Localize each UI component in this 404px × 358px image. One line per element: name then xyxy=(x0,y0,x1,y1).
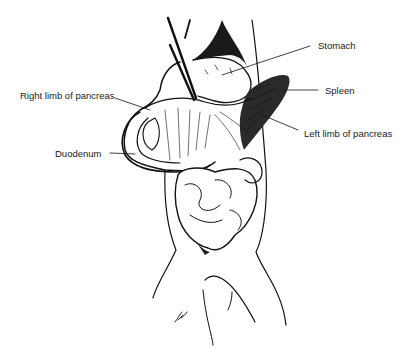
intestines-drawing xyxy=(175,158,262,255)
anatomical-illustration: Stomach Spleen Right limb of pancreas Le… xyxy=(0,0,404,358)
duodenum-drawing xyxy=(122,112,215,172)
leader-left-limb xyxy=(262,115,298,130)
label-left-limb-pancreas: Left limb of pancreas xyxy=(304,129,392,139)
leader-lines xyxy=(110,46,318,154)
leader-right-limb xyxy=(115,98,150,110)
leader-duodenum xyxy=(110,153,135,154)
liver-flap xyxy=(124,62,210,171)
incision-top xyxy=(193,20,248,70)
label-right-limb-pancreas: Right limb of pancreas xyxy=(20,91,115,101)
artist-signature xyxy=(175,312,187,322)
retractor-instruments xyxy=(168,18,196,100)
pancreas-drawing xyxy=(143,98,252,160)
stomach-drawing xyxy=(193,57,251,102)
spleen-drawing xyxy=(240,75,290,150)
label-spleen: Spleen xyxy=(325,86,355,96)
label-duodenum: Duodenum xyxy=(55,149,101,159)
label-stomach: Stomach xyxy=(318,41,356,51)
illustration-drawing xyxy=(0,0,404,358)
